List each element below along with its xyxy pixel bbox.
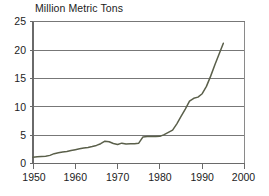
x-tick-label-1960: 1960 — [64, 171, 88, 183]
line-chart-plot: 25 20 15 10 5 0 1950 1960 1970 1980 1990… — [0, 0, 269, 196]
y-tick-label-5: 5 — [20, 129, 26, 141]
y-tick-label-10: 10 — [14, 101, 26, 113]
x-tick-label-2000: 2000 — [232, 171, 256, 183]
y-tick-label-0: 0 — [20, 157, 26, 169]
x-tick-marks — [33, 164, 245, 169]
x-tick-label-1990: 1990 — [191, 171, 215, 183]
x-tick-label-1950: 1950 — [22, 171, 46, 183]
x-tick-label-1970: 1970 — [106, 171, 130, 183]
x-tick-label-1980: 1980 — [148, 171, 172, 183]
gridlines — [33, 22, 245, 136]
data-series-line — [33, 43, 223, 157]
y-tick-labels: 25 20 15 10 5 0 — [14, 15, 26, 169]
y-tick-label-25: 25 — [14, 15, 26, 27]
x-tick-labels: 1950 1960 1970 1980 1990 2000 — [22, 171, 255, 183]
chart-container: Million Metric Tons — [0, 0, 269, 196]
y-tick-label-20: 20 — [14, 44, 26, 56]
y-tick-label-15: 15 — [14, 72, 26, 84]
